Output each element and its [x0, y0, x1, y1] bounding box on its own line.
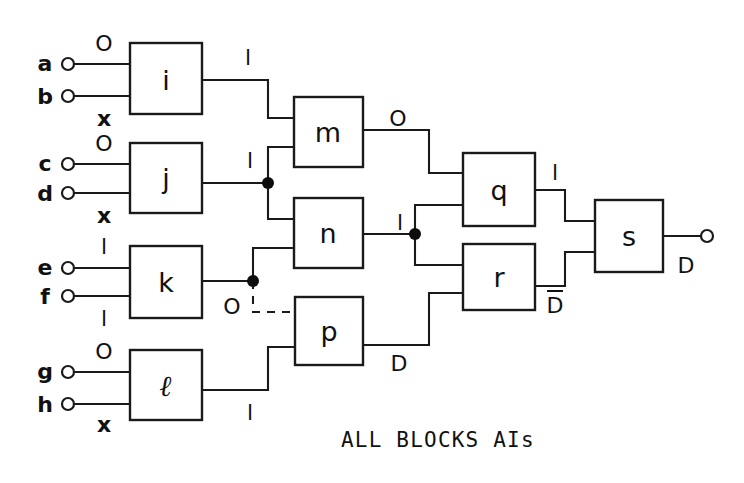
- input-terminal-c[interactable]: [62, 158, 74, 170]
- wire-l-to-p: [202, 347, 295, 390]
- block-label-n: n: [319, 218, 336, 249]
- circuit-svg: i j k ℓ m n p q r s a b c d e f g h O x …: [0, 0, 744, 483]
- block-label-m: m: [315, 117, 341, 148]
- caption: ALL BLOCKS AIs: [341, 428, 535, 452]
- wire-junction-k-to-p-dashed: [253, 281, 295, 312]
- wire-junction-k-to-n: [253, 248, 294, 281]
- wire-p-to-r: [363, 293, 463, 345]
- input-terminal-b[interactable]: [62, 90, 74, 102]
- input-label-h: h: [37, 392, 53, 417]
- signal-label-out-p: D: [391, 351, 408, 376]
- input-label-a: a: [38, 51, 53, 76]
- block-label-j: j: [161, 163, 170, 194]
- input-terminal-a[interactable]: [62, 58, 74, 70]
- signal-label-out-r-group: D: [547, 291, 564, 318]
- input-state-f: l: [101, 306, 107, 331]
- block-label-k: k: [158, 267, 174, 298]
- block-label-s: s: [622, 221, 636, 252]
- block-label-i: i: [162, 65, 170, 96]
- input-group-b: [62, 90, 130, 102]
- input-terminal-e[interactable]: [62, 262, 74, 274]
- input-state-h: x: [97, 412, 111, 437]
- circuit-diagram: i j k ℓ m n p q r s a b c d e f g h O x …: [0, 0, 744, 483]
- wire-r-to-s: [535, 252, 595, 286]
- input-label-d: d: [37, 181, 53, 206]
- input-label-b: b: [37, 84, 53, 109]
- junction-dot-n: [409, 228, 421, 240]
- input-state-g: O: [95, 339, 112, 364]
- block-label-q: q: [490, 175, 507, 206]
- input-label-c: c: [38, 151, 51, 176]
- signal-label-out-i: l: [245, 45, 251, 70]
- input-state-b: x: [97, 106, 111, 131]
- input-group-h: [62, 398, 130, 410]
- input-terminal-h[interactable]: [62, 398, 74, 410]
- junction-dot-k: [247, 275, 259, 287]
- signal-label-out-r: D: [547, 293, 564, 318]
- input-terminal-d[interactable]: [62, 187, 74, 199]
- input-label-g: g: [37, 359, 53, 384]
- input-label-f: f: [40, 284, 50, 309]
- input-terminal-f[interactable]: [62, 290, 74, 302]
- input-group-d: [62, 187, 130, 199]
- signal-label-out-j: l: [247, 148, 253, 173]
- input-group-e: [62, 262, 130, 274]
- signal-label-out-q: l: [552, 160, 558, 185]
- wire-m-to-q: [363, 130, 463, 173]
- signal-label-out-l: l: [247, 400, 253, 425]
- junction-dot-j: [262, 177, 274, 189]
- input-state-a: O: [95, 31, 112, 56]
- block-label-l: ℓ: [160, 369, 172, 403]
- input-group-f: [62, 290, 130, 302]
- wire-junction-n-to-q: [415, 205, 463, 234]
- input-state-c: O: [95, 131, 112, 156]
- block-label-p: p: [320, 316, 337, 347]
- signal-label-out-n: l: [397, 210, 403, 235]
- input-terminal-g[interactable]: [62, 366, 74, 378]
- input-group-g: [62, 366, 130, 378]
- wire-q-to-s: [535, 190, 595, 221]
- wire-junction-j-to-m: [268, 147, 294, 183]
- input-group-a: [62, 58, 130, 70]
- block-label-r: r: [493, 262, 505, 293]
- wire-junction-j-to-n: [268, 183, 294, 219]
- input-group-c: [62, 158, 130, 170]
- input-label-e: e: [38, 255, 53, 280]
- wire-junction-n-to-r: [415, 234, 463, 265]
- signal-label-out-m: O: [389, 106, 406, 131]
- input-state-e: l: [101, 234, 107, 259]
- signal-label-out-k: O: [223, 294, 240, 319]
- output-label-d: D: [678, 253, 695, 278]
- wire-i-to-m: [202, 80, 294, 118]
- output-terminal[interactable]: [701, 230, 713, 242]
- input-state-d: x: [97, 203, 111, 228]
